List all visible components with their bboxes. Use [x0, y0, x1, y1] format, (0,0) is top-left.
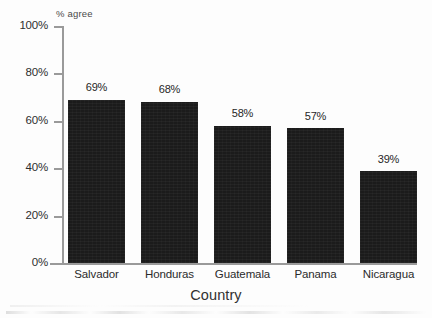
plot-area — [62, 26, 417, 263]
bar-chart: % agree 100% 80% 60% 40% 20% 0% 69% 68% … — [0, 0, 432, 318]
y-axis-label: % agree — [56, 8, 93, 19]
bar-panama[interactable] — [287, 128, 344, 263]
bar-nicaragua[interactable] — [360, 171, 417, 263]
bar-salvador[interactable] — [68, 100, 125, 264]
y-tick-label-40: 40% — [26, 161, 48, 173]
x-category-label-guatemala: Guatemala — [206, 268, 279, 280]
x-axis-line — [50, 263, 417, 265]
x-category-label-salvador: Salvador — [60, 268, 133, 280]
y-tick-label-80: 80% — [26, 66, 48, 78]
bar-guatemala[interactable] — [214, 126, 271, 264]
bar-value-salvador: 69% — [68, 81, 125, 93]
x-category-label-nicaragua: Nicaragua — [352, 268, 425, 280]
y-tick-mark-0 — [54, 263, 63, 265]
bar-value-honduras: 68% — [141, 83, 198, 95]
x-category-label-panama: Panama — [279, 268, 352, 280]
scan-artifact-lower — [6, 311, 426, 314]
y-tick-label-100: 100% — [19, 19, 48, 31]
bar-value-nicaragua: 39% — [360, 153, 417, 165]
scan-artifact-upper — [10, 305, 310, 307]
x-category-label-honduras: Honduras — [133, 268, 206, 280]
y-tick-label-0: 0% — [32, 256, 48, 268]
bar-value-guatemala: 58% — [214, 107, 271, 119]
bar-value-panama: 57% — [287, 110, 344, 122]
x-axis-title: Country — [0, 287, 432, 303]
y-tick-label-60: 60% — [26, 114, 48, 126]
bar-honduras[interactable] — [141, 102, 198, 263]
y-tick-label-20: 20% — [26, 209, 48, 221]
